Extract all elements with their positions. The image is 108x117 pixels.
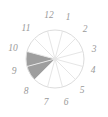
hour-label-8: 8 — [24, 87, 29, 97]
hour-label-10: 10 — [8, 44, 18, 54]
hour-label-9: 9 — [12, 67, 17, 77]
hour-label-12: 12 — [44, 11, 54, 21]
hour-label-4: 4 — [91, 66, 96, 76]
hour-label-3: 3 — [92, 45, 97, 55]
hour-label-6: 6 — [64, 98, 69, 108]
hour-label-5: 5 — [80, 86, 85, 96]
clock-pie-chart: 121234567891011 — [0, 0, 108, 117]
hour-label-1: 1 — [66, 13, 71, 23]
hour-label-2: 2 — [83, 25, 88, 35]
hour-label-11: 11 — [22, 24, 31, 34]
hour-label-7: 7 — [44, 98, 49, 108]
